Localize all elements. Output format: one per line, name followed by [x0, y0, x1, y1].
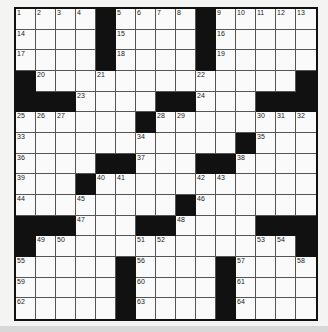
grid-cell[interactable]: 34 [136, 133, 156, 154]
grid-cell[interactable] [36, 154, 56, 175]
grid-cell[interactable]: 46 [196, 195, 216, 216]
grid-cell[interactable] [296, 133, 316, 154]
grid-cell[interactable]: 15 [116, 30, 136, 51]
grid-cell[interactable] [96, 298, 116, 319]
grid-cell[interactable]: 56 [136, 257, 156, 278]
grid-cell[interactable]: 51 [136, 236, 156, 257]
grid-cell[interactable] [76, 112, 96, 133]
grid-cell[interactable]: 12 [276, 9, 296, 30]
grid-cell[interactable] [176, 50, 196, 71]
grid-cell[interactable] [276, 154, 296, 175]
grid-cell[interactable]: 49 [36, 236, 56, 257]
grid-cell[interactable]: 63 [136, 298, 156, 319]
grid-cell[interactable]: 14 [16, 30, 36, 51]
grid-cell[interactable] [56, 298, 76, 319]
grid-cell[interactable]: 11 [256, 9, 276, 30]
grid-cell[interactable] [76, 298, 96, 319]
grid-cell[interactable] [296, 154, 316, 175]
grid-cell[interactable]: 9 [216, 9, 236, 30]
grid-cell[interactable]: 52 [156, 236, 176, 257]
grid-cell[interactable] [76, 154, 96, 175]
grid-cell[interactable] [176, 174, 196, 195]
grid-cell[interactable]: 30 [256, 112, 276, 133]
grid-cell[interactable] [196, 257, 216, 278]
grid-cell[interactable]: 37 [136, 154, 156, 175]
grid-cell[interactable]: 1 [16, 9, 36, 30]
grid-cell[interactable]: 38 [236, 154, 256, 175]
grid-cell[interactable] [176, 298, 196, 319]
grid-cell[interactable]: 62 [16, 298, 36, 319]
grid-cell[interactable] [76, 236, 96, 257]
grid-cell[interactable] [196, 278, 216, 299]
grid-cell[interactable]: 60 [136, 278, 156, 299]
grid-cell[interactable]: 43 [216, 174, 236, 195]
grid-cell[interactable]: 27 [56, 112, 76, 133]
grid-cell[interactable] [216, 112, 236, 133]
grid-cell[interactable]: 58 [296, 257, 316, 278]
grid-cell[interactable]: 13 [296, 9, 316, 30]
grid-cell[interactable]: 64 [236, 298, 256, 319]
grid-cell[interactable] [256, 50, 276, 71]
grid-cell[interactable] [216, 236, 236, 257]
grid-cell[interactable]: 42 [196, 174, 216, 195]
grid-cell[interactable]: 35 [256, 133, 276, 154]
grid-cell[interactable]: 29 [176, 112, 196, 133]
grid-cell[interactable] [36, 298, 56, 319]
grid-cell[interactable]: 57 [236, 257, 256, 278]
grid-cell[interactable] [196, 236, 216, 257]
grid-cell[interactable] [276, 278, 296, 299]
grid-cell[interactable]: 24 [196, 92, 216, 113]
grid-cell[interactable]: 33 [16, 133, 36, 154]
grid-cell[interactable]: 40 [96, 174, 116, 195]
grid-cell[interactable] [156, 30, 176, 51]
grid-cell[interactable] [136, 30, 156, 51]
grid-cell[interactable] [296, 278, 316, 299]
grid-cell[interactable] [116, 133, 136, 154]
grid-cell[interactable] [96, 133, 116, 154]
grid-cell[interactable]: 2 [36, 9, 56, 30]
grid-cell[interactable]: 7 [156, 9, 176, 30]
grid-cell[interactable] [36, 195, 56, 216]
grid-cell[interactable]: 48 [176, 216, 196, 237]
grid-cell[interactable] [236, 50, 256, 71]
grid-cell[interactable] [276, 133, 296, 154]
grid-cell[interactable] [116, 112, 136, 133]
grid-cell[interactable] [296, 30, 316, 51]
grid-cell[interactable]: 3 [56, 9, 76, 30]
grid-cell[interactable] [296, 50, 316, 71]
grid-cell[interactable] [236, 195, 256, 216]
grid-cell[interactable] [136, 174, 156, 195]
grid-cell[interactable] [116, 195, 136, 216]
grid-cell[interactable] [236, 30, 256, 51]
grid-cell[interactable] [56, 71, 76, 92]
grid-cell[interactable]: 4 [76, 9, 96, 30]
grid-cell[interactable] [176, 71, 196, 92]
grid-cell[interactable] [276, 30, 296, 51]
grid-cell[interactable] [96, 216, 116, 237]
grid-cell[interactable] [56, 257, 76, 278]
grid-cell[interactable]: 61 [236, 278, 256, 299]
grid-cell[interactable] [236, 174, 256, 195]
grid-cell[interactable]: 32 [296, 112, 316, 133]
grid-cell[interactable]: 26 [36, 112, 56, 133]
grid-cell[interactable] [96, 92, 116, 113]
grid-cell[interactable] [276, 298, 296, 319]
grid-cell[interactable] [296, 174, 316, 195]
grid-cell[interactable] [76, 278, 96, 299]
grid-cell[interactable] [76, 71, 96, 92]
grid-cell[interactable] [276, 50, 296, 71]
grid-cell[interactable] [276, 257, 296, 278]
grid-cell[interactable] [256, 71, 276, 92]
grid-cell[interactable] [296, 195, 316, 216]
grid-cell[interactable] [116, 92, 136, 113]
grid-cell[interactable] [156, 195, 176, 216]
grid-cell[interactable] [156, 298, 176, 319]
grid-cell[interactable] [136, 71, 156, 92]
grid-cell[interactable] [176, 154, 196, 175]
grid-cell[interactable]: 17 [16, 50, 36, 71]
grid-cell[interactable] [256, 298, 276, 319]
grid-cell[interactable] [76, 257, 96, 278]
grid-cell[interactable] [256, 278, 276, 299]
grid-cell[interactable] [196, 133, 216, 154]
grid-cell[interactable] [216, 133, 236, 154]
